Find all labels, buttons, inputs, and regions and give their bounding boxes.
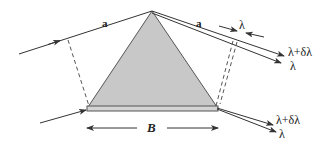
wavefront-dashed-left (68, 40, 89, 106)
incident-ray-bottom (40, 110, 86, 123)
output-rays-bottom (217, 108, 276, 132)
label-lambda-marker: λ (239, 18, 245, 32)
label-base-width: B (146, 120, 156, 135)
label-top-lambda: λ (290, 59, 296, 73)
label-a-left: a (102, 17, 108, 29)
prism-dispersion-diagram: a a λ λ+δλ λ λ+δλ λ B (0, 0, 333, 149)
label-top-lambda-plus-dlambda: λ+δλ (288, 45, 312, 59)
label-a-right: a (196, 17, 202, 29)
label-bottom-lambda-plus-dlambda: λ+δλ (276, 113, 300, 127)
prism-base-strip (87, 106, 218, 111)
wavefront-dashed-right (216, 41, 237, 106)
label-bottom-lambda: λ (279, 127, 285, 141)
